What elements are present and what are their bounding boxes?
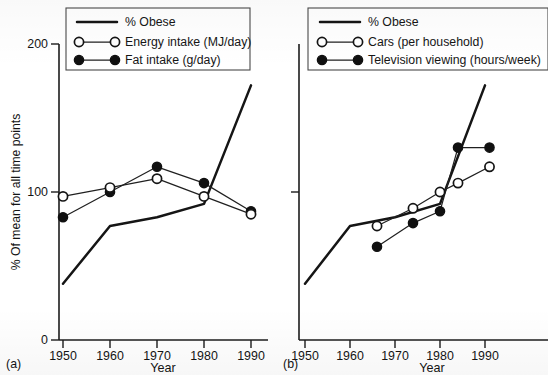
panel-b-cars-point-1991: [485, 162, 494, 171]
panel-a-legend-marker-fat-right: [110, 55, 119, 64]
panel-a-legend-marker-energy-right: [110, 37, 119, 46]
panel-b-legend-marker-tv-right: [353, 55, 362, 64]
panel-a-xtick-label-1990: 1990: [237, 349, 265, 363]
panel-b-cars-point-1966: [372, 221, 381, 230]
panel-b-legend-marker-cars-right: [353, 37, 362, 46]
panel-b-xtick-label-1960: 1960: [336, 349, 364, 363]
panel-a-ytick-label-200: 200: [27, 37, 48, 51]
panel-a-legend-label-fat: Fat intake (g/day): [125, 53, 221, 67]
panel-a-legend-marker-energy-left: [74, 37, 83, 46]
panel-b-cars-point-1980: [435, 187, 444, 196]
panel-b-legend-marker-cars-left: [317, 37, 326, 46]
panel-a-energy-point-1980: [199, 192, 208, 201]
panel-b-tv-point-1984: [453, 143, 462, 152]
panel-b-label: (b): [283, 357, 298, 371]
panel-a-energy-point-1970: [152, 174, 161, 183]
panel-a-ytick-label-100: 100: [27, 185, 48, 199]
panel-b-legend-label-tv: Television viewing (hours/week): [368, 53, 541, 67]
chart-svg: 200 100 0 1950 1960 1970 1980 1990: [0, 0, 548, 375]
panel-b-tv-point-1966: [372, 242, 381, 251]
panel-a-energy-point-1990: [246, 210, 255, 219]
panel-b-legend-marker-tv-left: [317, 55, 326, 64]
panel-a-series-obese: [63, 85, 251, 283]
panel-a-ylabel: % Of mean for all time points: [9, 114, 23, 270]
panel-a-ytick-label-0: 0: [41, 333, 48, 347]
panel-a-legend-label-energy: Energy intake (MJ/day): [125, 35, 251, 49]
panel-a-energy-point-1960: [105, 183, 114, 192]
panel-b-tv-point-1980: [435, 207, 444, 216]
panel-b-series-tv-line: [377, 148, 490, 247]
panel-a-fat-point-1970: [152, 162, 161, 171]
panel-a-energy-point-1950: [58, 192, 67, 201]
panel-b-cars-point-1984: [453, 179, 462, 188]
panel-b-xtick-label-1970: 1970: [381, 349, 409, 363]
panel-a-legend-label-obese: % Obese: [125, 15, 176, 29]
panel-a-xtick-label-1950: 1950: [49, 349, 77, 363]
panel-b-legend-label-obese: % Obese: [368, 15, 419, 29]
panel-b: 1950 1960 1970 1980 1990: [283, 8, 548, 375]
panel-b-xlabel: Year: [419, 361, 444, 375]
panel-a-xlabel: Year: [150, 361, 175, 375]
panel-b-series-cars-line: [377, 167, 490, 226]
panel-b-tv-point-1991: [485, 143, 494, 152]
panel-b-xtick-label-1990: 1990: [471, 349, 499, 363]
figure-container: 200 100 0 1950 1960 1970 1980 1990: [0, 0, 548, 375]
panel-a-xtick-label-1960: 1960: [96, 349, 124, 363]
panel-a: 200 100 0 1950 1960 1970 1980 1990: [6, 8, 268, 375]
panel-b-tv-point-1974: [408, 219, 417, 228]
panel-a-legend-marker-fat-left: [74, 55, 83, 64]
panel-a-xtick-label-1980: 1980: [190, 349, 218, 363]
panel-a-fat-point-1980: [199, 179, 208, 188]
panel-a-label: (a): [6, 357, 21, 371]
panel-b-cars-point-1974: [408, 204, 417, 213]
panel-b-legend-label-cars: Cars (per household): [368, 35, 484, 49]
panel-a-fat-point-1950: [58, 213, 67, 222]
